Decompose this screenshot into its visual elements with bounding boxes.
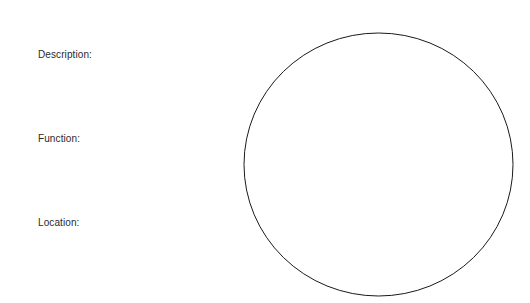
circle-icon [244,33,513,296]
circle-drawing-area [0,0,530,303]
